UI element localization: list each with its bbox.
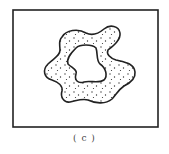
frame-rectangle [13, 10, 158, 127]
annulus-region [45, 26, 136, 103]
figure-diagram [0, 0, 169, 154]
figure-caption: ( c ) [0, 133, 169, 143]
